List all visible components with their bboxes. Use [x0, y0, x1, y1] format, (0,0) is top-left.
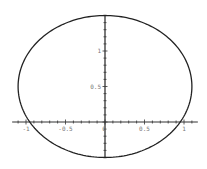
x-tick-label: -1: [22, 125, 30, 132]
y-tick-label: 0.5: [90, 83, 101, 90]
tick-labels: -1-0.500.510.51: [22, 47, 186, 132]
axis-ticks: [18, 16, 192, 158]
x-tick-label: 0.5: [139, 125, 150, 132]
ellipse-plot: -1-0.500.510.51: [0, 0, 207, 169]
x-tick-label: -0.5: [58, 125, 73, 132]
x-tick-label: 1: [182, 125, 186, 132]
x-tick-label: 0: [102, 125, 106, 132]
y-tick-label: 1: [97, 47, 101, 54]
